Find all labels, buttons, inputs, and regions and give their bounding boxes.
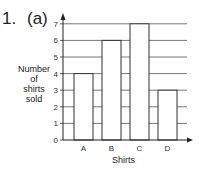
bar-c (130, 24, 149, 140)
y-tick-label: 4 (54, 70, 59, 79)
y-tick-label: 6 (54, 36, 59, 45)
bar-d (158, 90, 177, 140)
bar-a (74, 74, 93, 140)
x-tick-label: C (137, 144, 143, 153)
y-axis-arrow-icon (61, 13, 66, 20)
y-tick-label: 1 (54, 119, 59, 128)
x-axis-arrow-icon (187, 138, 193, 143)
y-tick-label: 7 (54, 20, 59, 29)
x-axis-label: Shirts (112, 155, 135, 165)
x-tick-label: A (81, 144, 87, 153)
bar-b (102, 40, 121, 140)
x-tick-label: B (109, 144, 114, 153)
y-tick-label: 2 (54, 103, 59, 112)
bar-chart: 01234567ABCD (0, 0, 199, 171)
x-tick-label: D (165, 144, 171, 153)
y-tick-label: 0 (54, 136, 59, 145)
y-tick-label: 3 (54, 86, 59, 95)
y-tick-label: 5 (54, 53, 59, 62)
